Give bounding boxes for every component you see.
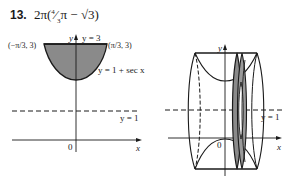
curve-label: y = 1 + sec x	[98, 65, 145, 75]
left-top-line-label: y = 3	[82, 33, 101, 43]
figures: y y = 3 (−π/3, 3) (π/3, 3) y = 1 + sec x…	[0, 0, 284, 176]
right-x-label: x	[276, 142, 281, 152]
right-x-axis-arrow-icon	[276, 136, 282, 140]
right-y-label: y	[217, 43, 222, 53]
left-y-label: y	[68, 33, 73, 43]
left-end-back	[195, 53, 200, 169]
left-point-label: (−π/3, 3)	[8, 41, 36, 50]
upper-curve	[195, 53, 257, 81]
right-point-label: (π/3, 3)	[108, 41, 132, 50]
lower-curve	[195, 139, 257, 169]
left-origin-label: 0	[68, 142, 73, 152]
left-figure: y y = 3 (−π/3, 3) (π/3, 3) y = 1 + sec x…	[8, 33, 145, 153]
right-origin-label: 0	[217, 140, 222, 150]
left-end-front	[188, 53, 195, 169]
right-end-back	[252, 53, 257, 169]
right-y-axis-arrow-icon	[223, 44, 227, 50]
left-x-label: x	[135, 143, 140, 153]
right-figure: y y = 1 0 x	[165, 43, 284, 176]
left-dashed-label: y = 1	[120, 113, 139, 123]
right-dashed-label: y = 1	[261, 112, 280, 122]
right-end-front	[257, 53, 264, 169]
x-axis-arrow-icon	[136, 138, 142, 142]
y-axis-arrow-icon	[74, 34, 78, 40]
